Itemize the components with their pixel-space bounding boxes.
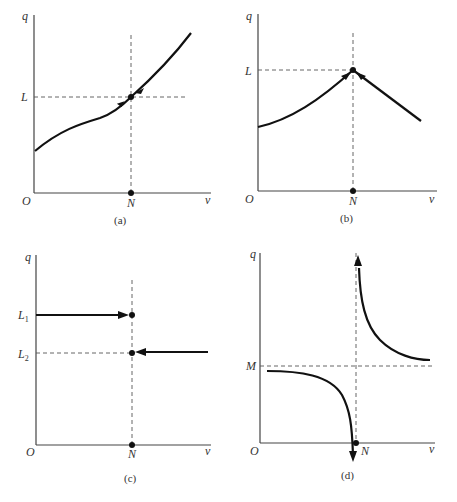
equilibrium-point (128, 94, 134, 100)
x-axis-label: v (429, 192, 435, 206)
l-label: L (244, 64, 252, 78)
origin-label: O (26, 445, 35, 459)
arrow-head-icon (118, 311, 129, 319)
l2-label: L2 (17, 347, 29, 363)
n-label: N (348, 194, 358, 208)
peak-point (350, 67, 356, 73)
caption: (a) (114, 214, 127, 227)
l1-label: L1 (17, 308, 29, 324)
curve (35, 33, 191, 151)
n-label: N (127, 447, 137, 461)
panel-a: q L O N v (a) (20, 9, 211, 227)
caption: (b) (340, 212, 353, 225)
panel-c: q L1 L2 O N v (c) (17, 250, 211, 485)
arrow-head-icon (354, 255, 362, 266)
y-axis-label: q (250, 247, 256, 261)
origin-label: O (250, 444, 259, 458)
origin-label: O (22, 194, 31, 208)
y-axis-label: q (25, 250, 31, 264)
caption: (c) (124, 472, 137, 485)
l-label: L (20, 90, 28, 104)
figure: q L O N v (a) q L O N v (b) (0, 0, 457, 502)
origin-label: O (245, 192, 254, 206)
x-axis-label: v (205, 444, 211, 458)
m-label: M (245, 359, 257, 373)
panel-b: q L O N v (b) (244, 9, 437, 225)
x-axis-label: v (429, 442, 435, 456)
arrow-head-icon (349, 451, 357, 462)
curve-left (258, 70, 353, 127)
l2-endpoint (129, 350, 135, 356)
y-axis-label: q (22, 9, 28, 23)
x-axis-label: v (205, 193, 211, 207)
n-label: N (126, 196, 136, 210)
n-label: N (360, 444, 370, 458)
caption: (d) (341, 469, 354, 482)
l1-endpoint (129, 312, 135, 318)
panel-d: q M O N v (d) (245, 247, 435, 482)
n-point (353, 440, 359, 446)
arrow-head-icon (135, 348, 146, 356)
y-axis-label: q (246, 9, 252, 23)
curve-right-branch (359, 268, 430, 360)
